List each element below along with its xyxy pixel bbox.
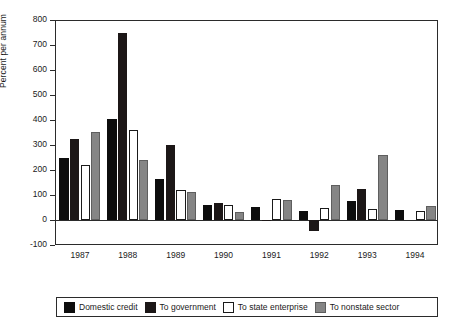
legend-label: Domestic credit (79, 302, 138, 312)
y-axis-title: Percent per annum (0, 0, 8, 88)
bar-1992-domestic-credit (299, 211, 308, 221)
bar-1988-domestic-credit (107, 119, 116, 220)
x-tick-label-1991: 1991 (248, 250, 296, 260)
bar-chart-figure: Percent per annum -100010020030040050060… (0, 0, 449, 336)
x-tick-label-1990: 1990 (200, 250, 248, 260)
bar-1988-to-nonstate-sector (139, 160, 148, 220)
bar-1990-to-government (214, 203, 223, 220)
bar-1990-to-nonstate-sector (235, 212, 244, 220)
bar-1989-to-state-enterprise (176, 190, 185, 220)
y-tick-label: 700 (33, 39, 47, 49)
bar-group-1994 (395, 21, 436, 244)
bar-1988-to-state-enterprise (129, 130, 138, 221)
y-tick-mark (50, 245, 55, 246)
y-tick-label: 0 (42, 214, 47, 224)
bar-group-1991 (251, 21, 292, 244)
y-tick-label: 300 (33, 139, 47, 149)
bar-1994-domestic-credit (395, 210, 404, 220)
bar-1992-to-government (309, 220, 318, 231)
y-tick-mark (50, 195, 55, 196)
y-tick-label: 600 (33, 64, 47, 74)
x-tick-label-1993: 1993 (343, 250, 391, 260)
bar-1987-to-government (70, 139, 79, 220)
y-tick-label: 400 (33, 114, 47, 124)
y-tick-label: 800 (33, 14, 47, 24)
legend-item-to-nonstate-sector[interactable]: To nonstate sector (315, 302, 399, 313)
y-tick-mark (50, 120, 55, 121)
legend-item-domestic-credit[interactable]: Domestic credit (64, 302, 138, 313)
bar-1994-to-state-enterprise (416, 211, 425, 220)
bar-group-1992 (299, 21, 340, 244)
y-tick-mark (50, 20, 55, 21)
x-tick-label-1988: 1988 (104, 250, 152, 260)
bar-1990-domestic-credit (203, 205, 212, 220)
bars-layer (56, 21, 437, 244)
bar-1992-to-state-enterprise (320, 208, 329, 221)
bar-group-1987 (59, 21, 100, 244)
x-tick-label-1987: 1987 (56, 250, 104, 260)
legend-label: To state enterprise (238, 302, 308, 312)
bar-1987-to-state-enterprise (81, 165, 90, 221)
bar-1991-domestic-credit (251, 207, 260, 220)
bar-group-1990 (203, 21, 244, 244)
bar-1987-domestic-credit (59, 158, 68, 221)
bar-1992-to-nonstate-sector (331, 185, 340, 220)
bar-1993-domestic-credit (347, 201, 356, 221)
bar-1991-to-nonstate-sector (283, 200, 292, 220)
bar-1991-to-state-enterprise (272, 199, 281, 221)
legend-swatch-icon (223, 302, 234, 313)
bar-1993-to-nonstate-sector (378, 155, 387, 220)
legend-swatch-icon (64, 302, 75, 313)
chart-legend: Domestic creditTo governmentTo state ent… (56, 297, 438, 317)
legend-label: To nonstate sector (330, 302, 399, 312)
bar-group-1988 (107, 21, 148, 244)
bar-1994-to-nonstate-sector (426, 206, 435, 221)
bar-group-1989 (155, 21, 196, 244)
legend-swatch-icon (315, 302, 326, 313)
x-tick-label-1994: 1994 (391, 250, 439, 260)
legend-swatch-icon (145, 302, 156, 313)
bar-1989-to-nonstate-sector (187, 192, 196, 220)
bar-1993-to-government (357, 189, 366, 220)
bar-1993-to-state-enterprise (368, 209, 377, 220)
bar-1987-to-nonstate-sector (91, 132, 100, 220)
bar-1989-to-government (166, 145, 175, 220)
bar-1991-to-government (262, 220, 271, 221)
y-tick-mark (50, 70, 55, 71)
y-tick-label: 100 (33, 189, 47, 199)
y-tick-label: 500 (33, 89, 47, 99)
bar-group-1993 (347, 21, 388, 244)
y-tick-mark (50, 170, 55, 171)
y-tick-mark (50, 95, 55, 96)
bar-1988-to-government (118, 33, 127, 220)
legend-item-to-government[interactable]: To government (145, 302, 216, 313)
y-tick-mark (50, 45, 55, 46)
bar-1989-domestic-credit (155, 179, 164, 220)
bar-1990-to-state-enterprise (224, 205, 233, 220)
legend-label: To government (160, 302, 216, 312)
legend-item-to-state-enterprise[interactable]: To state enterprise (223, 302, 308, 313)
y-tick-label: 200 (33, 164, 47, 174)
y-tick-mark (50, 145, 55, 146)
x-tick-label-1992: 1992 (295, 250, 343, 260)
x-tick-label-1989: 1989 (152, 250, 200, 260)
y-tick-label: -100 (30, 239, 47, 249)
